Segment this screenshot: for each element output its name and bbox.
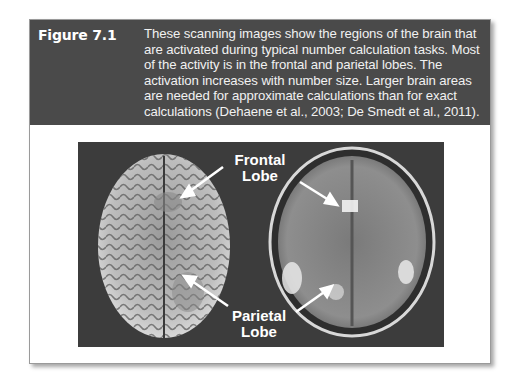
parietal-lobe-label: Parietal Lobe: [226, 308, 292, 340]
brain-surface-image: [98, 154, 230, 338]
figure-label: Figure 7.1: [38, 27, 116, 43]
parietal-lobe-label-line1: Parietal: [226, 308, 292, 324]
frontal-lobe-label: Frontal Lobe: [230, 152, 290, 184]
figure-card: Figure 7.1 These scanning images show th…: [29, 19, 491, 364]
brain-mri-image: [270, 148, 434, 336]
frontal-lobe-label-line1: Frontal: [230, 152, 290, 168]
figure-caption: These scanning images show the regions o…: [144, 26, 484, 119]
figure-caption-header: Figure 7.1 These scanning images show th…: [30, 20, 490, 125]
frontal-lobe-label-line2: Lobe: [230, 168, 290, 184]
parietal-lobe-label-line2: Lobe: [226, 324, 292, 340]
brain-scan-figure: Frontal Lobe Parietal Lobe: [78, 142, 444, 347]
